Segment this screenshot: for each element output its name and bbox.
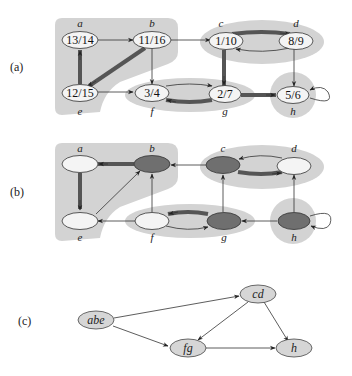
node-a-label: a [77,142,83,154]
node-a-times: 13/14 [66,33,93,47]
node-c-label: c [219,17,224,29]
edge-cd-h [264,302,288,341]
node-h-times: 5/6 [285,88,300,102]
node-h-label: h [291,341,297,355]
node-b-label: b [149,17,155,29]
scc-diagram: (a) 13/14 a [0,0,352,376]
node-abe: abe [78,311,114,329]
panel-b: (b) a b [10,142,331,244]
node-d-times: 8/9 [288,34,303,48]
node-e-times: 12/15 [66,86,93,100]
node-d-label: d [291,142,297,154]
node-cd: cd [240,285,276,303]
node-h-label: h [291,231,297,243]
node-g-label: g [222,105,228,117]
node-f-times: 3/4 [144,86,159,100]
node-h-label: h [290,105,296,117]
node-h: h [276,339,312,357]
node-cd-label: cd [252,287,264,301]
node-e-label: e [78,105,83,117]
node-fg-label: fg [183,341,192,355]
edge-abe-fg [113,326,168,346]
node-b-times: 11/16 [139,33,166,47]
node-d-label: d [293,17,299,29]
panel-a: (a) 13/14 a [10,17,330,118]
node-c-label: c [221,142,226,154]
node-c-times: 1/10 [215,34,236,48]
node-g-label: g [221,231,227,243]
node-b-label: b [149,142,155,154]
panel-a-label: (a) [10,60,23,74]
node-fg: fg [170,339,206,357]
edge-abe-cd [114,296,239,318]
panel-c-label: (c) [18,314,31,328]
panel-c: (c) abe cd fg h [18,285,312,357]
node-abe-label: abe [87,313,105,327]
node-a-label: a [77,17,83,29]
node-g-times: 2/7 [217,87,232,101]
node-e-label: e [78,231,83,243]
edge-cd-fg [198,302,248,340]
panel-b-label: (b) [10,185,24,199]
